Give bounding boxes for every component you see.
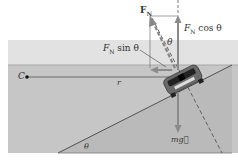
radius-label: r xyxy=(117,79,121,87)
weight-label: mg⃗ xyxy=(171,136,189,144)
angle-theta-bottom: θ xyxy=(84,143,89,151)
horizontal-component-label: FN sin θ xyxy=(103,44,139,55)
normal-force-label: FN xyxy=(140,6,152,17)
normal-force-subscript: N xyxy=(146,10,151,17)
vertical-component-tail: cos θ xyxy=(196,23,222,33)
center-label: C xyxy=(18,72,25,81)
horizontal-component-tail: sin θ xyxy=(115,43,139,53)
angle-theta-top: θ xyxy=(167,38,172,47)
vertical-component-label: FN cos θ xyxy=(184,24,222,35)
center-point xyxy=(25,75,29,79)
